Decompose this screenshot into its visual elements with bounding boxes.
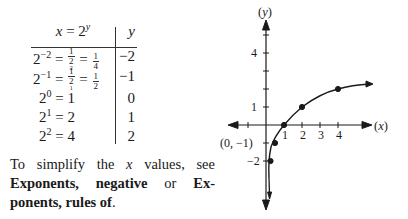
data-point [268, 158, 273, 163]
x-axis-label: (x) [374, 119, 388, 133]
y-tick-4: 4 [251, 46, 257, 60]
y-tick-neg2: −2 [247, 154, 260, 168]
data-point [335, 86, 340, 91]
data-point [272, 140, 277, 145]
data-point [299, 104, 304, 109]
x-tick-2: 2 [300, 128, 306, 142]
point-annotation: (0, −1) [220, 136, 253, 150]
curve-arrow-down-icon [268, 192, 272, 199]
y-axis-arrow-up-icon [263, 20, 270, 30]
x-tick-4: 4 [336, 128, 342, 142]
log-graph: (y) (x) 4 1 −2 1 2 3 4 (0, −1) [0, 0, 408, 219]
x-tick-1: 1 [282, 128, 288, 142]
data-point [281, 122, 286, 127]
y-axis-label: (y) [258, 5, 272, 19]
x-tick-3: 3 [318, 128, 324, 142]
y-tick-1: 1 [251, 100, 257, 114]
x-axis-arrow-right-icon [362, 122, 372, 129]
y-axis-arrow-down-icon [263, 200, 270, 210]
curve-arrow-right-icon [366, 81, 373, 87]
x-axis-arrow-left-icon [228, 122, 238, 129]
